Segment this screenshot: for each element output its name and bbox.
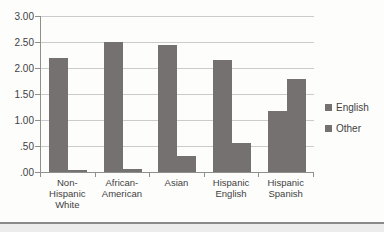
- other-bar: [123, 169, 142, 172]
- y-axis-tick-label: 1.00: [0, 115, 34, 126]
- y-axis-tick-mark: [35, 120, 40, 121]
- bar-group-3: [150, 16, 205, 172]
- english-bar: [158, 45, 177, 172]
- bar-chart: 3.002.502.001.501.00.50.00 Non- Hispanic…: [0, 0, 384, 232]
- x-axis-category-label: Asian: [149, 177, 204, 210]
- y-axis-tick-label: 2.00: [0, 63, 34, 74]
- english-bar: [104, 42, 123, 172]
- y-axis-tick-mark: [35, 42, 40, 43]
- legend: English Other: [325, 102, 369, 134]
- y-axis-tick-mark: [35, 16, 40, 17]
- legend-item-other: Other: [325, 123, 369, 134]
- legend-label-english: English: [336, 102, 369, 113]
- english-bar: [49, 58, 68, 172]
- y-axis-tick-mark: [35, 94, 40, 95]
- x-axis-category-label: Non- Hispanic White: [40, 177, 95, 210]
- page-edge-strip: [0, 224, 384, 232]
- y-axis-tick-label: .50: [0, 141, 34, 152]
- other-bar: [68, 170, 87, 172]
- x-axis-labels: Non- Hispanic WhiteAfrican- AmericanAsia…: [40, 177, 313, 210]
- bar-group-2: [96, 16, 151, 172]
- other-bar: [232, 143, 251, 172]
- bar-group-5: [259, 16, 314, 172]
- legend-label-other: Other: [336, 123, 361, 134]
- x-axis-category-label: African- American: [95, 177, 150, 210]
- english-bar: [213, 60, 232, 172]
- y-axis-tick-mark: [35, 146, 40, 147]
- bar-group-1: [41, 16, 96, 172]
- other-bar: [177, 156, 196, 172]
- x-axis-category-label: Hispanic Spanish: [258, 177, 313, 210]
- y-axis-tick-label: 3.00: [0, 11, 34, 22]
- y-axis-tick-label: .00: [0, 167, 34, 178]
- legend-marker-english-icon: [325, 104, 332, 111]
- bar-group-4: [205, 16, 260, 172]
- y-axis-tick-label: 1.50: [0, 89, 34, 100]
- english-bar: [268, 111, 287, 172]
- x-axis-tick-mark: [313, 173, 314, 177]
- y-axis-tick-mark: [35, 68, 40, 69]
- plot-area: [40, 16, 314, 173]
- other-bar: [287, 79, 306, 172]
- y-axis-tick-label: 2.50: [0, 37, 34, 48]
- legend-item-english: English: [325, 102, 369, 113]
- legend-marker-other-icon: [325, 125, 332, 132]
- x-axis-category-label: Hispanic English: [204, 177, 259, 210]
